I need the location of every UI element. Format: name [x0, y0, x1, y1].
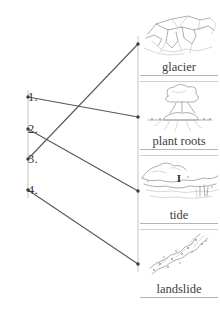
numbered-item[interactable]: 3. [0, 151, 40, 167]
connector-dots [26, 42, 139, 265]
numbered-item[interactable]: 2. [0, 121, 40, 137]
column-spines [28, 36, 138, 272]
connector-line[interactable] [28, 44, 138, 159]
panel-caption: landslide [138, 282, 220, 296]
landslide-sketch-icon [138, 230, 220, 282]
answer-panels-column: glacier [138, 0, 220, 311]
panel-caption: plant roots [138, 134, 220, 148]
numbered-items-column: 1. 2. 3. 4. [0, 0, 40, 311]
caption-underline [140, 297, 218, 298]
tide-level-marker: I [177, 172, 181, 184]
item-number-label: 3. [28, 151, 38, 167]
plant-roots-sketch-icon [138, 82, 220, 134]
item-number-label: 4. [28, 182, 38, 198]
item-number-label: 1. [28, 89, 38, 105]
matching-diagram: 1. 2. 3. 4. [0, 0, 220, 311]
glacier-sketch-icon [138, 8, 220, 60]
caption-underline [140, 223, 218, 224]
caption-underline [140, 149, 218, 150]
answer-panel-landslide[interactable]: landslide [138, 230, 220, 298]
connector-lines [28, 44, 138, 264]
caption-underline [140, 75, 218, 76]
answer-panel-plant-roots[interactable]: plant roots [138, 82, 220, 156]
connector-line[interactable] [28, 190, 138, 264]
panel-caption: glacier [138, 60, 220, 74]
numbered-item[interactable]: 4. [0, 182, 40, 198]
answer-panel-glacier[interactable]: glacier [138, 8, 220, 82]
connector-line[interactable] [28, 129, 138, 191]
connector-line[interactable] [28, 97, 138, 117]
item-number-label: 2. [28, 121, 38, 137]
numbered-item[interactable]: 1. [0, 89, 40, 105]
panel-caption: tide [138, 208, 220, 222]
tide-sketch-icon: I [138, 156, 220, 208]
answer-panel-tide[interactable]: I tide [138, 156, 220, 230]
